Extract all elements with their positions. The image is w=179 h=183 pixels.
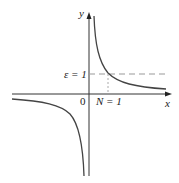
n-label: N = 1 (95, 95, 122, 107)
curve-left-branch (12, 99, 84, 176)
x-axis-label: x (164, 97, 170, 109)
y-axis-arrow-icon (87, 12, 92, 19)
hyperbola-diagram: y x 0 ε = 1 N = 1 (0, 0, 179, 183)
y-axis-label: y (78, 7, 84, 19)
origin-label: 0 (80, 95, 86, 107)
epsilon-label: ε = 1 (64, 68, 87, 80)
curve-right-branch (94, 16, 166, 89)
x-axis-arrow-icon (165, 92, 172, 97)
